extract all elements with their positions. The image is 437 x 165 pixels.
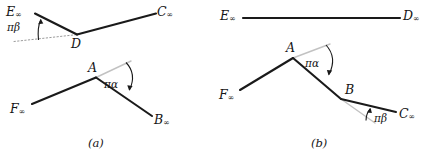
label-c-text-panel-a: C bbox=[157, 4, 167, 19]
segment-f-to-a-panel-b bbox=[240, 58, 293, 90]
label-e-subscript-panel-b: ∞ bbox=[229, 14, 235, 23]
label-pi-alpha-panel-b: πα bbox=[305, 58, 319, 69]
label-f-infinity-panel-a: F∞ bbox=[10, 103, 25, 116]
diagram-canvas bbox=[0, 0, 437, 165]
label-b-text-panel-a: B bbox=[154, 112, 163, 127]
label-e-infinity-panel-a: E∞ bbox=[6, 6, 21, 19]
label-e-subscript-panel-a: ∞ bbox=[15, 10, 21, 19]
label-a-panel-a: A bbox=[88, 62, 97, 75]
label-pi-beta-panel-b: πβ bbox=[374, 113, 387, 124]
guide-ray-a-panel-b bbox=[293, 44, 330, 58]
segment-e-to-d bbox=[35, 14, 77, 35]
caption-panel-a: (a) bbox=[88, 138, 104, 150]
panel-a-graphics bbox=[14, 14, 156, 117]
segment-d-to-c bbox=[77, 14, 156, 35]
guide-dotted-line-d bbox=[14, 35, 78, 42]
label-c-infinity-panel-b: C∞ bbox=[399, 108, 415, 121]
figure-container: E∞ πβ D C∞ A πα F∞ B∞ (a) E∞ D∞ A πα F∞ … bbox=[0, 0, 437, 165]
label-d-infinity-panel-b: D∞ bbox=[403, 10, 419, 23]
label-d-subscript-panel-b: ∞ bbox=[413, 14, 419, 23]
label-a-panel-b: A bbox=[286, 42, 295, 55]
label-pi-beta-panel-a: πβ bbox=[7, 22, 20, 33]
label-d-text-panel-b: D bbox=[403, 8, 413, 23]
angle-arc-pi-alpha-b bbox=[326, 45, 333, 75]
label-f-text-panel-a: F bbox=[10, 101, 19, 116]
label-c-text-panel-b: C bbox=[399, 106, 409, 121]
label-pi-alpha-panel-a: πα bbox=[104, 79, 118, 90]
angle-arrowhead-pi-beta-a bbox=[38, 19, 43, 24]
label-c-subscript-panel-a: ∞ bbox=[167, 10, 173, 19]
label-f-subscript-panel-b: ∞ bbox=[228, 93, 234, 102]
panel-b-graphics bbox=[240, 18, 400, 123]
label-e-text-panel-a: E bbox=[6, 4, 15, 19]
label-f-text-panel-b: F bbox=[219, 87, 228, 102]
label-f-subscript-panel-a: ∞ bbox=[19, 107, 25, 116]
label-b-panel-b: B bbox=[345, 84, 354, 97]
label-d-panel-a: D bbox=[71, 38, 81, 51]
label-c-infinity-panel-a: C∞ bbox=[157, 6, 173, 19]
label-f-infinity-panel-b: F∞ bbox=[219, 89, 234, 102]
label-e-text-panel-b: E bbox=[220, 8, 229, 23]
label-e-infinity-panel-b: E∞ bbox=[220, 10, 235, 23]
guide-ray-a-panel-a bbox=[96, 61, 131, 78]
label-c-subscript-panel-b: ∞ bbox=[409, 112, 415, 121]
segment-f-to-a-panel-a bbox=[32, 78, 96, 105]
label-b-infinity-panel-a: B∞ bbox=[154, 114, 170, 127]
caption-panel-b: (b) bbox=[311, 138, 327, 150]
label-b-subscript-panel-a: ∞ bbox=[163, 118, 169, 127]
